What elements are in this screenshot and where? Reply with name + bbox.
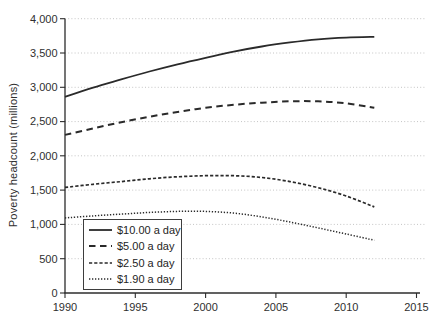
legend-item-5-dollars: $5.00 a day	[89, 240, 181, 252]
legend-label: $1.90 a day	[117, 273, 175, 285]
chart-canvas: 05001,0001,5002,0002,5003,0003,5004,0001…	[0, 0, 441, 327]
legend-short-dash-line-icon	[89, 259, 112, 267]
y-tick-label: 1,000	[30, 218, 58, 230]
y-tick-label: 3,000	[30, 81, 58, 93]
x-tick-label: 2000	[193, 301, 217, 313]
legend: $10.00 a day $5.00 a day $2.50 a day $1.…	[83, 219, 182, 290]
y-tick-label: 0	[51, 287, 57, 299]
x-tick-label: 2005	[264, 301, 288, 313]
legend-item-2-50-dollars: $2.50 a day	[89, 257, 181, 269]
legend-label: $5.00 a day	[117, 240, 175, 252]
legend-long-dash-line-icon	[89, 242, 112, 250]
y-axis-title: Poverty headcount (millions)	[7, 83, 19, 227]
y-tick-label: 4,000	[30, 13, 58, 25]
legend-dotted-line-icon	[89, 275, 112, 283]
y-tick-label: 1,500	[30, 184, 58, 196]
x-tick-label: 1990	[53, 301, 77, 313]
y-tick-label: 2,000	[30, 150, 58, 162]
series-line-3	[65, 176, 374, 207]
series-line-1	[65, 37, 374, 97]
legend-solid-line-icon	[89, 226, 112, 234]
series-line-2	[65, 101, 374, 135]
y-tick-label: 2,500	[30, 115, 58, 127]
x-tick-label: 2015	[404, 301, 428, 313]
y-tick-label: 500	[39, 253, 57, 265]
poverty-headcount-line-chart: 05001,0001,5002,0002,5003,0003,5004,0001…	[0, 0, 441, 327]
legend-item-10-dollars: $10.00 a day	[89, 224, 181, 236]
x-tick-label: 1995	[123, 301, 147, 313]
legend-label: $10.00 a day	[117, 224, 181, 236]
x-tick-label: 2010	[334, 301, 358, 313]
y-tick-label: 3,500	[30, 47, 58, 59]
legend-item-1-90-dollars: $1.90 a day	[89, 273, 181, 285]
legend-label: $2.50 a day	[117, 257, 175, 269]
